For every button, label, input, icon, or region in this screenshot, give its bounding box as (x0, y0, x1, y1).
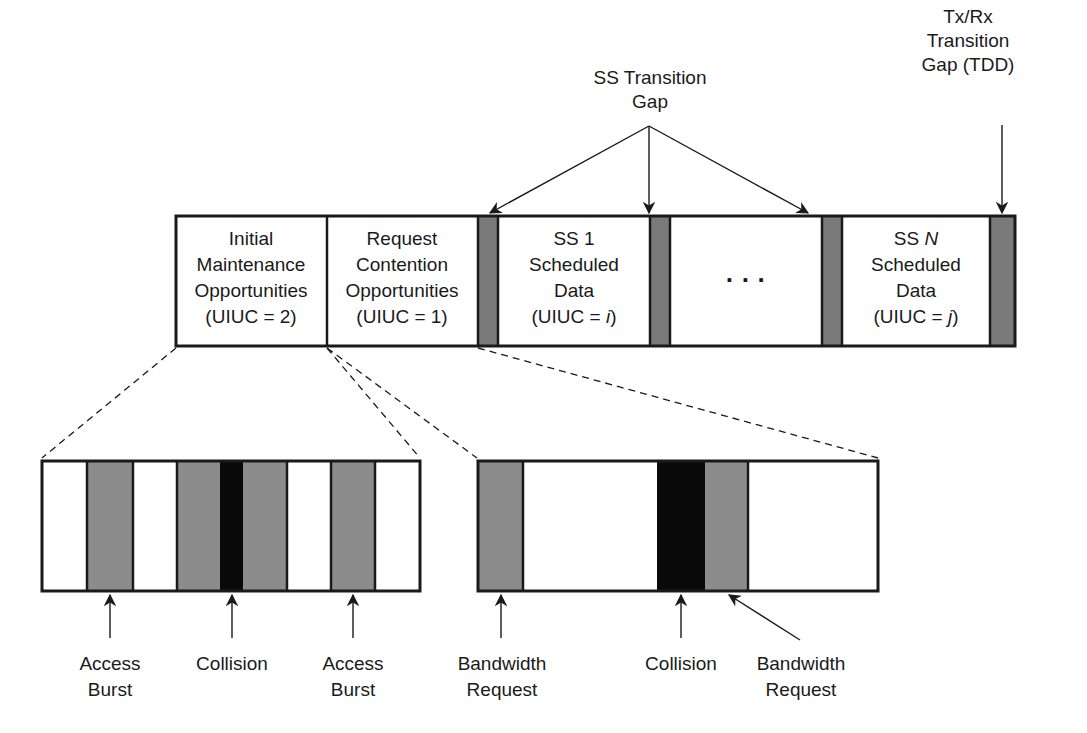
ss-transition-gap-label-line1: SS Transition (594, 67, 707, 88)
segment-text: (UIUC = i) (532, 306, 617, 327)
txrx-label-line1: Tx/Rx (943, 6, 993, 27)
ellipsis: · · · (726, 265, 766, 295)
access-burst-1-label: Burst (88, 679, 133, 700)
arrow-to-gap-3-icon (649, 126, 808, 213)
collision-label: Collision (645, 653, 717, 674)
txrx-transition-gap (990, 216, 1014, 346)
arrow-to-gap-1-icon (490, 126, 649, 213)
uplink-frame: Initial Maintenance Opportunities (UIUC … (176, 216, 1015, 346)
bandwidth-request-2-label: Request (766, 679, 837, 700)
segment-text: Initial (229, 228, 273, 249)
segment-request-contention: Request Contention Opportunities (UIUC =… (345, 228, 458, 327)
bandwidth-request-slot-1 (478, 461, 523, 591)
burst-slot-b (243, 461, 287, 591)
uplink-subframe-diagram: SS Transition Gap Tx/Rx Transition Gap (… (0, 0, 1087, 733)
bandwidth-request-slot-2 (705, 461, 748, 591)
bandwidth-request-2-arrow-icon (729, 595, 800, 640)
segment-text: SS 1 (553, 228, 594, 249)
bandwidth-request-1-label: Bandwidth (458, 653, 547, 674)
bandwidth-request-2-label: Bandwidth (757, 653, 846, 674)
ss-transition-gap-2 (650, 216, 670, 346)
segment-text: Request (367, 228, 438, 249)
segment-ssn-scheduled-data: SS N Scheduled Data (UIUC = j) (871, 228, 961, 327)
segment-text: Contention (356, 254, 448, 275)
access-burst-slot-1 (87, 461, 133, 591)
burst-slot-a (177, 461, 220, 591)
ss-transition-gap-3 (822, 216, 842, 346)
segment-text: SS N (894, 228, 939, 249)
segment-text: Scheduled (529, 254, 619, 275)
access-burst-slot-2 (331, 461, 375, 591)
bandwidth-request-1-label: Request (467, 679, 538, 700)
segment-text: Data (896, 280, 937, 301)
segment-text: Opportunities (194, 280, 307, 301)
access-burst-2-label: Access (322, 653, 383, 674)
segment-text: Maintenance (197, 254, 306, 275)
segment-initial-maintenance: Initial Maintenance Opportunities (UIUC … (194, 228, 307, 327)
access-burst-1-label: Access (79, 653, 140, 674)
txrx-label-line2: Transition (927, 30, 1010, 51)
access-burst-2-label: Burst (331, 679, 376, 700)
ss-transition-gap-annotation: SS Transition Gap (490, 67, 808, 213)
ss-transition-gap-1 (478, 216, 498, 346)
txrx-transition-gap-annotation: Tx/Rx Transition Gap (TDD) (922, 6, 1015, 213)
segment-text: Data (554, 280, 595, 301)
txrx-label-line3: Gap (TDD) (922, 54, 1015, 75)
collision-slot (657, 461, 705, 591)
segment-text: (UIUC = 1) (356, 306, 447, 327)
segment-text: Opportunities (345, 280, 458, 301)
segment-text: (UIUC = 2) (205, 306, 296, 327)
segment-text: (UIUC = j) (874, 306, 959, 327)
collision-slot (220, 461, 243, 591)
ss-transition-gap-label-line2: Gap (632, 91, 668, 112)
segment-text: Scheduled (871, 254, 961, 275)
segment-ss1-scheduled-data: SS 1 Scheduled Data (UIUC = i) (529, 228, 619, 327)
request-contention-detail: Bandwidth Request Collision Bandwidth Re… (458, 461, 878, 700)
zoom-lines (42, 348, 878, 458)
collision-label: Collision (196, 653, 268, 674)
initial-maintenance-detail: Access Burst Collision Access Burst (42, 461, 420, 700)
